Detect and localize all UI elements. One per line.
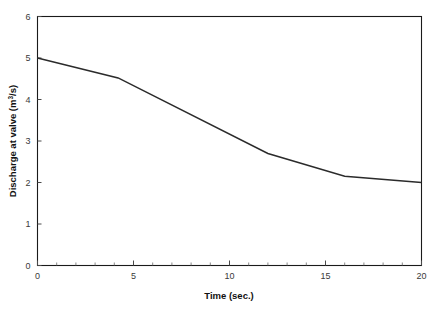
x-tick-label: 5 [131, 271, 136, 281]
y-tick-label: 0 [25, 261, 30, 271]
chart-canvas: 0123456 05101520 Time (sec.) Discharge a… [0, 0, 433, 312]
x-tick-label: 15 [320, 271, 330, 281]
y-tick-label: 6 [25, 12, 30, 22]
x-axis-ticks: 05101520 [35, 261, 427, 281]
y-tick-label: 1 [25, 219, 30, 229]
y-tick-label: 5 [25, 53, 30, 63]
x-axis-title: Time (sec.) [204, 290, 253, 301]
y-axis-title-group: Discharge at valve (m3/s) [7, 85, 18, 197]
y-tick-label: 2 [25, 178, 30, 188]
y-tick-label: 3 [25, 136, 30, 146]
y-axis-title-suffix: /s) [7, 85, 18, 96]
y-tick-label: 4 [25, 95, 30, 105]
x-tick-label: 20 [416, 271, 426, 281]
chart-figure: 0123456 05101520 Time (sec.) Discharge a… [0, 0, 433, 312]
x-tick-label: 10 [224, 271, 234, 281]
y-axis-ticks: 0123456 [25, 12, 41, 271]
x-tick-label: 0 [35, 271, 40, 281]
discharge-series-line [38, 58, 422, 183]
plot-area-frame [38, 17, 422, 266]
y-axis-title: Discharge at valve (m3/s) [7, 85, 18, 197]
y-axis-title-prefix: Discharge at valve (m [7, 100, 18, 198]
